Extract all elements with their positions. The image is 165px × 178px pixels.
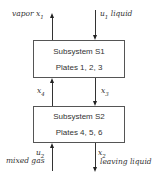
x3-line	[95, 78, 96, 101]
gas-u2-arrowhead-icon	[50, 143, 54, 148]
gas-u2-name-label: mixed gas	[6, 156, 45, 165]
liquid-u1-arrowhead-icon	[93, 35, 97, 40]
liquid-x2-arrowhead-icon	[93, 167, 97, 172]
liquid-u1-label: u1 liquid	[100, 9, 132, 20]
subsystem-s2-title: Subsystem S2	[34, 112, 124, 121]
subsystem-s1-plates: Plates 1, 2, 3	[34, 63, 124, 72]
subsystem-s2-plates: Plates 4, 5, 6	[34, 128, 124, 137]
liquid-x2-name-label: leaving liquid	[100, 157, 152, 166]
x4-line	[52, 82, 53, 106]
subsystem-s1-title: Subsystem S1	[34, 47, 124, 56]
liquid-x2-line	[95, 143, 96, 168]
subsystem-s1-box: Subsystem S1 Plates 1, 2, 3	[33, 40, 125, 78]
x4-label: x4	[37, 86, 45, 97]
vapor-x1-line	[52, 16, 53, 40]
x4-arrowhead-icon	[50, 78, 54, 83]
subsystem-s2-box: Subsystem S2 Plates 4, 5, 6	[33, 106, 125, 143]
liquid-u1-line	[95, 10, 96, 36]
x3-label: x3	[101, 86, 109, 97]
vapor-x1-label: vapor x1	[12, 9, 44, 20]
vapor-x1-arrowhead-icon	[50, 13, 54, 18]
x3-arrowhead-icon	[93, 101, 97, 106]
gas-u2-line	[52, 147, 53, 171]
